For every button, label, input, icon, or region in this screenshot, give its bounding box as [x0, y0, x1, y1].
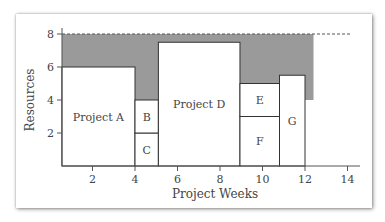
- x-tick-label: 4: [132, 173, 139, 186]
- block-label: C: [142, 144, 150, 157]
- x-tick-label: 10: [256, 173, 270, 186]
- x-tick-label: 2: [89, 173, 96, 186]
- block-label: Project D: [173, 98, 225, 111]
- block-label: G: [288, 115, 297, 128]
- x-axis-label: Project Weeks: [172, 187, 258, 201]
- resource-chart: Project ACBProject DFEG24682468101214Pro…: [0, 0, 385, 222]
- y-axis-label: Resources: [23, 69, 37, 132]
- block-label: B: [143, 111, 151, 124]
- block-label: F: [256, 135, 264, 148]
- x-tick-label: 6: [174, 173, 181, 186]
- y-tick-label: 2: [47, 127, 54, 140]
- x-tick-label: 12: [298, 173, 312, 186]
- y-tick-label: 6: [47, 61, 54, 74]
- y-tick-label: 4: [47, 94, 54, 107]
- block-label: E: [256, 94, 264, 107]
- block-label: Project A: [73, 111, 125, 124]
- x-tick-label: 8: [217, 173, 224, 186]
- y-tick-label: 8: [47, 28, 54, 41]
- x-tick-label: 14: [341, 173, 355, 186]
